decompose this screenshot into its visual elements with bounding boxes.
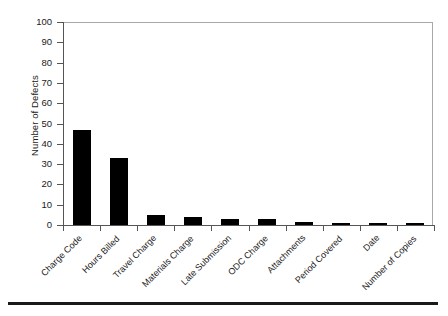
- bar-chart-figure: Number of Defects 0102030405060708090100…: [0, 0, 448, 316]
- y-tick-mark: [57, 42, 64, 43]
- y-tick-label: 60: [12, 98, 52, 108]
- bar: [406, 223, 424, 225]
- x-tick-mark: [434, 225, 435, 231]
- bar: [110, 158, 128, 225]
- bar: [369, 223, 387, 225]
- x-tick-mark: [174, 225, 175, 231]
- x-tick-mark: [360, 225, 361, 231]
- y-tick-label: 20: [12, 179, 52, 189]
- x-tick-mark: [63, 225, 64, 231]
- x-axis-category-label: Date: [361, 233, 382, 254]
- bar: [184, 217, 202, 225]
- y-tick-mark: [57, 144, 64, 145]
- y-tick-mark: [57, 184, 64, 185]
- y-tick-label: 0: [12, 220, 52, 230]
- x-tick-mark: [397, 225, 398, 231]
- bar: [221, 219, 239, 225]
- bar: [332, 223, 350, 225]
- y-tick-label: 80: [12, 58, 52, 68]
- x-tick-mark: [211, 225, 212, 231]
- y-tick-label: 40: [12, 139, 52, 149]
- y-tick-mark: [57, 124, 64, 125]
- y-tick-label: 70: [12, 78, 52, 88]
- y-tick-mark: [57, 103, 64, 104]
- y-tick-mark: [57, 164, 64, 165]
- y-tick-label: 50: [12, 119, 52, 129]
- y-tick-mark: [57, 205, 64, 206]
- x-axis-category-label: Charge Code: [39, 233, 84, 278]
- y-tick-label: 10: [12, 200, 52, 210]
- y-tick-label: 100: [12, 17, 52, 27]
- x-tick-mark: [249, 225, 250, 231]
- bottom-rule-divider: [8, 302, 438, 305]
- x-tick-mark: [100, 225, 101, 231]
- y-tick-label: 30: [12, 159, 52, 169]
- x-tick-mark: [323, 225, 324, 231]
- y-tick-mark: [57, 22, 64, 23]
- bar: [295, 222, 313, 225]
- x-tick-mark: [286, 225, 287, 231]
- y-tick-mark: [57, 63, 64, 64]
- bar: [73, 130, 91, 225]
- bar: [258, 219, 276, 225]
- y-tick-label: 90: [12, 37, 52, 47]
- y-tick-mark: [57, 83, 64, 84]
- bar: [147, 215, 165, 225]
- x-tick-mark: [137, 225, 138, 231]
